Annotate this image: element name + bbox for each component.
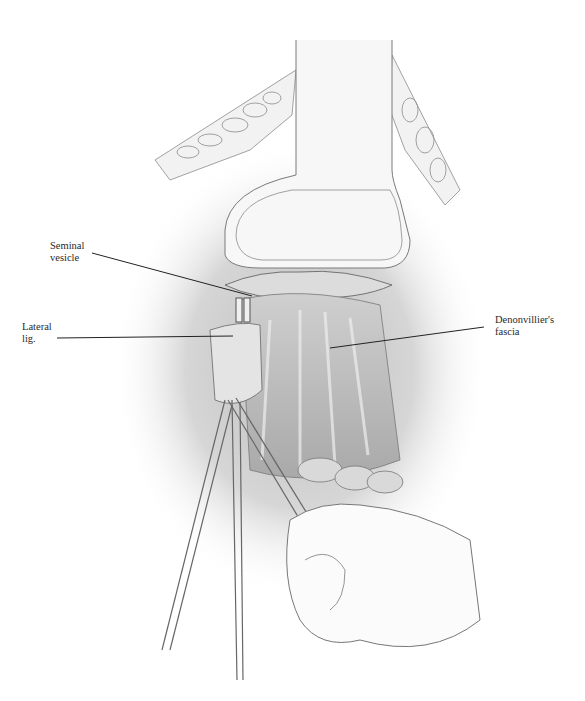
lateral-ligament <box>210 323 262 403</box>
label-lateral-lig: Lateral lig. <box>22 321 52 345</box>
label-denonvilliers-fascia: Denonvillier's fascia <box>495 314 554 338</box>
label-seminal-vesicle: Seminal vesicle <box>50 240 84 264</box>
label-line: vesicle <box>50 252 84 264</box>
anatomy-drawing <box>0 0 585 701</box>
label-line: Lateral <box>22 321 52 333</box>
surgeon-hand <box>287 504 480 647</box>
label-line: lig. <box>22 333 52 345</box>
label-line: Seminal <box>50 240 84 252</box>
label-line: Denonvillier's <box>495 314 554 326</box>
label-line: fascia <box>495 326 554 338</box>
surgical-illustration: Seminal vesicle Lateral lig. Denonvillie… <box>0 0 585 701</box>
